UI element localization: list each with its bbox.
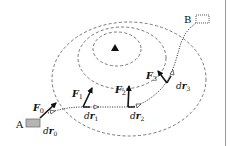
force-f1-arrow bbox=[83, 88, 92, 107]
label-f2: F2 bbox=[114, 84, 126, 97]
path-a-to-b bbox=[48, 23, 196, 113]
dr0-marker bbox=[50, 110, 55, 114]
label-f0: F0 bbox=[32, 102, 44, 115]
label-dr0: dr0 bbox=[43, 126, 58, 137]
force-f3-arrow bbox=[158, 71, 167, 83]
dr3-marker bbox=[170, 70, 174, 75]
dr3-base bbox=[167, 76, 171, 83]
label-dr1: dr1 bbox=[84, 111, 98, 122]
label-a: A bbox=[15, 119, 24, 130]
label-dr2: dr2 bbox=[130, 111, 145, 122]
label-b: B bbox=[184, 14, 191, 25]
contour-outer bbox=[52, 22, 206, 136]
block-a bbox=[26, 119, 40, 127]
label-f1: F1 bbox=[71, 88, 83, 101]
field-contours bbox=[52, 22, 206, 136]
dr1-marker bbox=[94, 105, 99, 109]
label-dr3: dr3 bbox=[176, 81, 191, 92]
dr-base-segments bbox=[83, 76, 171, 107]
block-b bbox=[196, 15, 209, 23]
force-f2-arrow bbox=[128, 86, 129, 107]
work-path-diagram: A B F0 F1 F2 F3 dr0 dr1 dr2 dr3 bbox=[0, 0, 230, 146]
source-triangle-icon bbox=[111, 44, 119, 51]
dr2-marker bbox=[136, 104, 141, 108]
